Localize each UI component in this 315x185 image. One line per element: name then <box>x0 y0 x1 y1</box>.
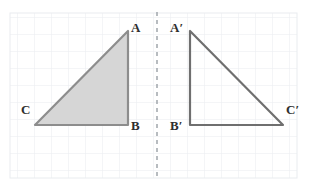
vertex-label-b-prime: B′ <box>170 119 182 132</box>
vertex-label-b: B <box>131 119 140 132</box>
figure-svg <box>0 0 315 185</box>
vertex-label-c: C <box>21 103 30 116</box>
vertex-label-a-prime: A′ <box>170 21 183 34</box>
vertex-label-c-prime: C′ <box>286 103 299 116</box>
vertex-label-a: A <box>131 21 140 34</box>
reflection-diagram-canvas: A B C A′ B′ C′ <box>0 0 315 185</box>
